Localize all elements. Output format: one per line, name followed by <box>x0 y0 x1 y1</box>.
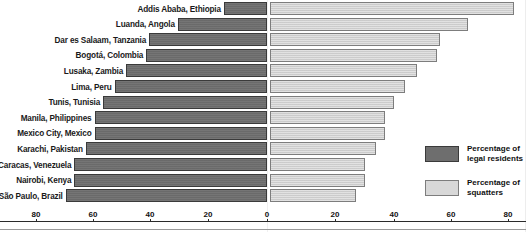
bar-squatters <box>270 174 365 187</box>
category-label: Caracas, Venezuela <box>0 160 71 169</box>
chart-row: Manila, Philippines <box>0 111 526 124</box>
diverging-bar-chart: Addis Ababa, EthiopiaLuanda, AngolaDar e… <box>0 0 526 232</box>
legend-label-line1: Percentage of <box>467 144 526 154</box>
category-label: Nairobi, Kenya <box>16 176 71 185</box>
bar-legal-residents <box>126 64 267 77</box>
chart-legend: Percentage of legal residents Percentage… <box>425 144 525 212</box>
legend-label-line2: squatters <box>467 188 526 198</box>
bar-legal-residents <box>178 18 267 31</box>
axis-tick-label: 0 <box>265 210 269 220</box>
bar-legal-residents <box>115 80 267 93</box>
legend-item-squatters: Percentage of squatters <box>425 178 525 204</box>
legend-label-line1: Percentage of <box>467 178 526 188</box>
legend-label-squatters: Percentage of squatters <box>467 178 526 198</box>
chart-row: Dar es Salaam, Tanzania <box>0 33 526 46</box>
category-label: Mexico City, Mexico <box>17 129 91 138</box>
bar-squatters <box>270 189 356 202</box>
bar-squatters <box>270 2 514 15</box>
bar-squatters <box>270 64 417 77</box>
bar-squatters <box>270 80 405 93</box>
bar-squatters <box>270 96 394 109</box>
axis-tick-label: 60 <box>89 210 98 220</box>
chart-row: Addis Ababa, Ethiopia <box>0 2 526 15</box>
bar-legal-residents <box>224 2 267 15</box>
axis-baseline <box>0 221 526 222</box>
category-label: Manila, Philippines <box>21 113 92 122</box>
x-axis: 80604020020406080 <box>0 210 526 232</box>
axis-baseline-secondary <box>0 229 526 230</box>
bar-squatters <box>270 33 440 46</box>
bar-legal-residents <box>95 111 268 124</box>
bar-legal-residents <box>103 96 267 109</box>
chart-row: Mexico City, Mexico <box>0 127 526 140</box>
category-label: São Paulo, Brazil <box>0 191 63 200</box>
category-label: Tunis, Tunisia <box>48 98 100 107</box>
category-label: Bogotá, Colombia <box>76 51 144 60</box>
bar-legal-residents <box>146 49 267 62</box>
axis-tick-label: 20 <box>204 210 213 220</box>
legend-swatch-squatters <box>425 180 459 196</box>
bar-squatters <box>270 111 385 124</box>
bar-squatters <box>270 49 437 62</box>
chart-row: Luanda, Angola <box>0 18 526 31</box>
chart-row: Bogotá, Colombia <box>0 49 526 62</box>
bar-squatters <box>270 127 385 140</box>
category-label: Lusaka, Zambia <box>64 66 123 75</box>
bar-legal-residents <box>74 158 267 171</box>
bar-legal-residents <box>86 142 267 155</box>
legend-label-legal-residents: Percentage of legal residents <box>467 144 526 164</box>
axis-tick-label: 80 <box>32 210 41 220</box>
bar-squatters <box>270 142 376 155</box>
axis-tick-label: 20 <box>331 210 340 220</box>
bar-legal-residents <box>95 127 268 140</box>
axis-tick-label: 40 <box>390 210 399 220</box>
legend-item-legal-residents: Percentage of legal residents <box>425 144 525 170</box>
legend-label-line2: legal residents <box>467 154 526 164</box>
chart-row: Lusaka, Zambia <box>0 64 526 77</box>
chart-row: Tunis, Tunisia <box>0 96 526 109</box>
chart-row: Lima, Peru <box>0 80 526 93</box>
legend-swatch-legal-residents <box>425 146 459 162</box>
category-label: Lima, Peru <box>71 82 111 91</box>
bar-legal-residents <box>74 174 267 187</box>
bar-squatters <box>270 158 365 171</box>
category-label: Addis Ababa, Ethiopia <box>137 4 220 13</box>
bar-legal-residents <box>149 33 267 46</box>
category-label: Luanda, Angola <box>116 20 175 29</box>
axis-tick-label: 40 <box>146 210 155 220</box>
category-label: Karachi, Pakistan <box>17 144 83 153</box>
bar-squatters <box>270 18 468 31</box>
category-label: Dar es Salaam, Tanzania <box>55 35 147 44</box>
bar-legal-residents <box>66 189 267 202</box>
